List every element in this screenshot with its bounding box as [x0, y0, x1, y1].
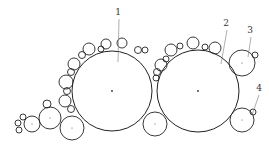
small-circle — [16, 127, 22, 133]
diagram-canvas: 1234 — [0, 0, 269, 145]
label-4: 4 — [256, 83, 262, 93]
center-dot — [32, 124, 33, 125]
small-circle — [202, 44, 208, 50]
circle-packing-diagram: 1234 — [0, 0, 269, 145]
leader-line-4 — [252, 95, 259, 115]
small-circle — [79, 52, 86, 59]
leader-line-3 — [248, 37, 251, 57]
center-dot — [111, 90, 113, 92]
small-circle — [177, 43, 183, 49]
small-circle — [68, 58, 80, 70]
medium-circles — [24, 50, 255, 140]
label-1: 1 — [115, 7, 121, 17]
small-circle — [59, 95, 71, 107]
center-dot — [155, 124, 156, 125]
small-circle — [155, 59, 167, 71]
small-circle — [209, 42, 221, 54]
callout-labels: 1234 — [115, 7, 262, 115]
center-dot — [50, 118, 51, 119]
small-circles — [15, 37, 258, 133]
label-2: 2 — [223, 18, 229, 28]
center-dot — [197, 90, 199, 92]
small-circle — [59, 75, 73, 89]
small-circle — [165, 44, 177, 56]
small-circle — [135, 47, 142, 54]
small-circle — [101, 39, 111, 49]
center-dot — [242, 120, 243, 121]
center-dot — [72, 128, 73, 129]
small-circle — [15, 120, 21, 126]
small-circle — [153, 75, 159, 81]
small-circle — [252, 52, 258, 58]
small-circle — [98, 46, 104, 52]
label-3: 3 — [247, 25, 253, 35]
small-circle — [20, 114, 26, 120]
small-circle — [187, 37, 199, 49]
small-circle — [68, 106, 75, 113]
small-circle — [43, 100, 51, 108]
small-circle — [142, 47, 148, 53]
center-dot — [242, 63, 243, 64]
